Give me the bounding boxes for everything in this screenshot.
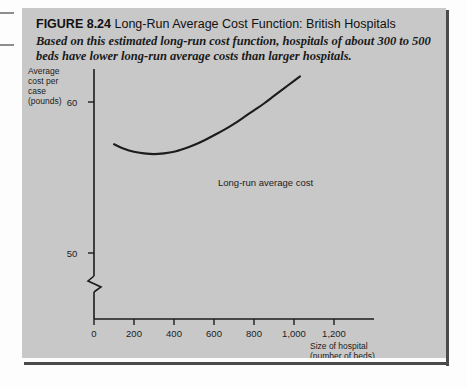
x-tick-label-800: 800 [246, 328, 262, 339]
y-axis-label-line-4: (pounds) [28, 96, 62, 106]
y-axis-label-line-1: Average [28, 66, 60, 76]
y-axis-break-icon [88, 276, 101, 292]
panel-shadow-bottom [24, 362, 449, 365]
x-axis-label-line-2: (number of beds) [310, 351, 375, 358]
x-axis-label-line-1: Size of hospital [310, 341, 368, 351]
x-tick-label-200: 200 [126, 328, 142, 339]
long-run-average-cost-curve [114, 76, 300, 154]
panel-shadow-right [446, 10, 449, 366]
figure-panel: FIGURE 8.24 Long-Run Average Cost Functi… [22, 8, 446, 358]
page-edge-mark-bottom [0, 44, 14, 46]
y-axis-label-line-3: case [28, 86, 46, 96]
x-tick-label-1200: 1,200 [322, 328, 346, 339]
y-axis-label-line-2: cost per [28, 76, 58, 86]
chart-plot-area: Average cost per case (pounds) 60 50 [22, 8, 446, 358]
x-tick-label-600: 600 [206, 328, 222, 339]
curve-annotation-label: Long-run average cost [218, 177, 313, 188]
y-tick-label-50: 50 [67, 248, 78, 259]
page-edge-mark-top [0, 12, 14, 14]
x-tick-label-400: 400 [166, 328, 182, 339]
x-tick-label-1000: 1,000 [282, 328, 306, 339]
x-tick-label-0: 0 [91, 328, 96, 339]
scanned-page: FIGURE 8.24 Long-Run Average Cost Functi… [0, 0, 467, 388]
y-tick-label-60: 60 [67, 97, 78, 108]
